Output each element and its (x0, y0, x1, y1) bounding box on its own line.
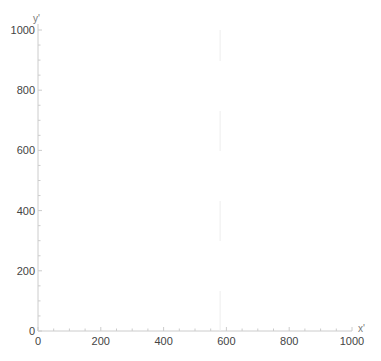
x-tick-label: 1000 (340, 335, 364, 347)
x-tick-label: 800 (280, 335, 298, 347)
y-tick-label: 0 (29, 325, 35, 337)
x-tick-label: 200 (92, 335, 110, 347)
x-tick-label: 0 (35, 335, 41, 347)
axes: 0200400600800100002004006008001000 (11, 24, 365, 347)
x-tick-label: 600 (217, 335, 235, 347)
x-axis-label: x' (358, 323, 365, 334)
y-axis-label: y' (33, 13, 40, 24)
y-tick-label: 800 (17, 84, 35, 96)
chart: 0200400600800100002004006008001000 x' y' (0, 0, 381, 361)
y-tick-label: 1000 (11, 24, 35, 36)
y-tick-label: 200 (17, 265, 35, 277)
x-tick-label: 400 (154, 335, 172, 347)
y-tick-label: 600 (17, 144, 35, 156)
y-tick-label: 400 (17, 205, 35, 217)
